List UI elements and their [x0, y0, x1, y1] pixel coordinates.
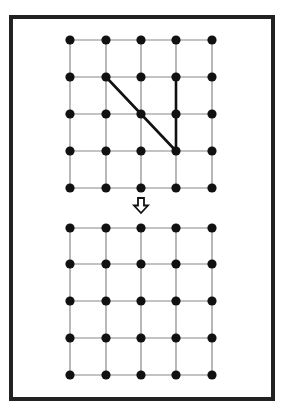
grid-dot: [65, 370, 74, 379]
grid-dot: [207, 333, 216, 342]
grid-dot: [171, 146, 180, 155]
grid-dot: [101, 109, 110, 118]
grid-dot: [207, 109, 216, 118]
grid-dot: [101, 333, 110, 342]
puzzle-diagram: [0, 0, 282, 416]
grid-dot: [207, 370, 216, 379]
grid-dot: [101, 370, 110, 379]
grid-dot: [171, 223, 180, 232]
grid-dot: [65, 109, 74, 118]
grid-dot: [171, 35, 180, 44]
down-arrow-icon: [134, 198, 148, 213]
grid-dot: [207, 296, 216, 305]
grid-dot: [101, 183, 110, 192]
bottom-dot-grid: [65, 223, 216, 379]
grid-dot: [101, 35, 110, 44]
grid-dot: [101, 223, 110, 232]
grid-dot: [65, 296, 74, 305]
grid-dot: [136, 35, 145, 44]
grid-dot: [171, 296, 180, 305]
grid-dot: [65, 223, 74, 232]
grid-dot: [171, 370, 180, 379]
grid-dot: [136, 370, 145, 379]
grid-dot: [171, 183, 180, 192]
grid-dot: [207, 72, 216, 81]
grid-dot: [207, 183, 216, 192]
grid-dot: [171, 259, 180, 268]
grid-dot: [101, 72, 110, 81]
top-dot-grid: [65, 35, 216, 192]
grid-dot: [136, 296, 145, 305]
grid-dot: [65, 146, 74, 155]
grid-dot: [207, 259, 216, 268]
grid-dot: [171, 72, 180, 81]
grid-dot: [136, 183, 145, 192]
grid-dot: [101, 259, 110, 268]
grid-dot: [207, 223, 216, 232]
grid-dot: [171, 109, 180, 118]
grid-dot: [136, 146, 145, 155]
grid-dot: [65, 35, 74, 44]
grid-dot: [207, 35, 216, 44]
grid-dot: [101, 296, 110, 305]
grid-dot: [65, 183, 74, 192]
grid-dot: [136, 333, 145, 342]
grid-dot: [65, 333, 74, 342]
grid-dot: [65, 72, 74, 81]
grid-dot: [136, 109, 145, 118]
grid-dot: [136, 259, 145, 268]
grid-dot: [171, 333, 180, 342]
grid-dot: [136, 72, 145, 81]
grid-dot: [101, 146, 110, 155]
grid-dot: [136, 223, 145, 232]
grid-dot: [65, 259, 74, 268]
grid-dot: [207, 146, 216, 155]
